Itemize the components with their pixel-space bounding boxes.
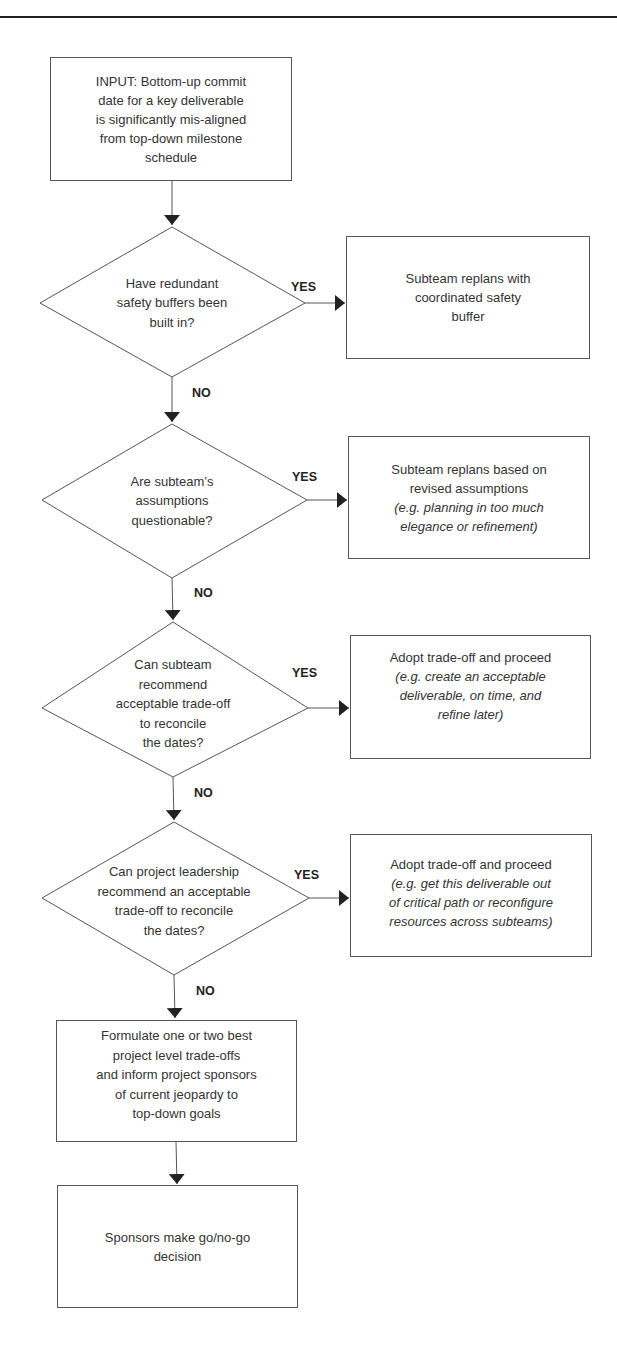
final-line: Sponsors make go/no-go bbox=[105, 1228, 250, 1247]
action-note-line: (e.g. get this deliverable out bbox=[391, 874, 551, 893]
no-label-2: NO bbox=[194, 586, 213, 600]
action-note-line: (e.g. planning in too much bbox=[394, 498, 544, 517]
question-line: safety buffers been bbox=[117, 293, 227, 313]
action-box-3: Adopt trade-off and proceed (e.g. create… bbox=[350, 635, 591, 759]
yes-label-4: YES bbox=[294, 868, 319, 882]
question-line: recommend an acceptable bbox=[97, 882, 250, 902]
action-box-1: Subteam replans with coordinated safety … bbox=[346, 236, 590, 359]
final-decision-box: Sponsors make go/no-go decision bbox=[57, 1185, 298, 1308]
action-note-line: (e.g. create an acceptable bbox=[395, 667, 545, 686]
action-note-line: refine later) bbox=[438, 705, 504, 724]
escalation-line: Formulate one or two best bbox=[101, 1026, 252, 1046]
action-line: Adopt trade-off and proceed bbox=[390, 855, 552, 874]
question-line: Are subteam’s bbox=[131, 472, 214, 492]
action-box-4: Adopt trade-off and proceed (e.g. get th… bbox=[350, 834, 592, 957]
action-line: coordinated safety bbox=[415, 288, 521, 307]
question-line: trade-off to reconcile bbox=[115, 901, 233, 921]
escalation-box: Formulate one or two best project level … bbox=[56, 1020, 297, 1142]
action-line: revised assumptions bbox=[410, 479, 529, 498]
question-line: acceptable trade-off bbox=[116, 694, 231, 714]
yes-label-3: YES bbox=[292, 666, 317, 680]
action-line: buffer bbox=[451, 307, 484, 326]
input-line: date for a key deliverable bbox=[98, 91, 243, 110]
question-line: Can subteam bbox=[134, 655, 211, 675]
escalation-line: and inform project sponsors bbox=[96, 1065, 256, 1085]
action-note-line: elegance or refinement) bbox=[400, 517, 537, 536]
question-line: assumptions bbox=[136, 491, 209, 511]
action-line: Adopt trade-off and proceed bbox=[390, 648, 552, 667]
input-line: schedule bbox=[145, 148, 197, 167]
action-line: Subteam replans based on bbox=[391, 460, 546, 479]
action-note-line: resources across subteams) bbox=[389, 912, 552, 931]
input-box: INPUT: Bottom-up commit date for a key d… bbox=[50, 57, 292, 181]
question-line: questionable? bbox=[132, 511, 213, 531]
input-line: INPUT: Bottom-up commit bbox=[96, 72, 246, 91]
question-line: the dates? bbox=[144, 921, 205, 941]
input-line: from top-down milestone bbox=[100, 129, 242, 148]
question-line: the dates? bbox=[143, 733, 204, 753]
yes-label-2: YES bbox=[292, 470, 317, 484]
escalation-line: top-down goals bbox=[132, 1104, 220, 1124]
question-line: to reconcile bbox=[140, 714, 206, 734]
question-line: Can project leadership bbox=[109, 862, 239, 882]
decision-3-question: Can subteam recommend acceptable trade-o… bbox=[72, 654, 274, 754]
yes-label-1: YES bbox=[291, 280, 316, 294]
action-line: Subteam replans with bbox=[405, 269, 530, 288]
action-note-line: of critical path or reconfigure bbox=[389, 893, 553, 912]
action-box-2: Subteam replans based on revised assumpt… bbox=[348, 436, 590, 559]
final-line: decision bbox=[154, 1247, 202, 1266]
input-line: is significantly mis-aligned bbox=[96, 110, 246, 129]
no-label-4: NO bbox=[196, 984, 215, 998]
escalation-line: project level trade-offs bbox=[113, 1046, 241, 1066]
no-label-3: NO bbox=[194, 786, 213, 800]
decision-2-question: Are subteam’s assumptions questionable? bbox=[72, 468, 272, 534]
escalation-line: of current jeopardy to bbox=[115, 1085, 238, 1105]
question-line: Have redundant bbox=[126, 274, 219, 294]
question-line: recommend bbox=[139, 675, 208, 695]
decision-1-question: Have redundant safety buffers been built… bbox=[72, 270, 272, 336]
question-line: built in? bbox=[150, 313, 195, 333]
decision-4-question: Can project leadership recommend an acce… bbox=[62, 858, 286, 944]
no-label-1: NO bbox=[192, 386, 211, 400]
action-note-line: deliverable, on time, and bbox=[400, 686, 542, 705]
